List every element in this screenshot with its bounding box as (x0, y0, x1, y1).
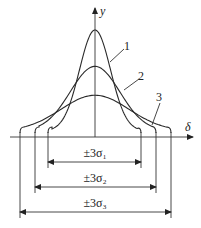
x-axis-label: δ (185, 120, 191, 134)
dim-label-2: ±3σ₂ (83, 171, 106, 185)
curve-1-leader (110, 49, 124, 62)
y-axis-label: y (99, 4, 106, 18)
curve-3-leader (152, 103, 160, 125)
curve-3-label: 3 (156, 90, 162, 104)
curve-2-label: 2 (138, 69, 144, 83)
dim-label-3: ±3σ₃ (83, 196, 106, 210)
curve-3 (20, 95, 171, 133)
distribution-diagram: δ y 1 2 3 ±3σ₁ ±3σ₂ ±3σ₃ (0, 0, 201, 228)
curve-1-label: 1 (124, 39, 130, 53)
dim-label-1: ±3σ₁ (83, 146, 106, 160)
curve-2-leader (124, 79, 139, 90)
